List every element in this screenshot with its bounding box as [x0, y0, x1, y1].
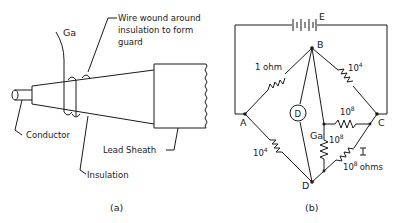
wire-leader	[88, 18, 117, 72]
c-junction-dot	[369, 123, 372, 126]
resistor-cd-label: 108ohms	[343, 160, 384, 172]
insulation-leader	[80, 116, 88, 174]
cable-diagram: Ga Wire wound around insulation to form …	[12, 13, 207, 213]
guard-wire-b	[312, 48, 324, 124]
battery-label: E	[319, 11, 325, 22]
detector-wire-top	[300, 48, 312, 104]
node-b-dot	[310, 46, 314, 50]
lead-sheath-leader	[166, 128, 178, 150]
guard-node-label: Ga	[310, 130, 323, 141]
insulation-cone	[32, 70, 154, 124]
guard-node-dot	[322, 122, 325, 125]
node-c-label: C	[378, 117, 385, 128]
wire-label-line3: guard	[118, 37, 143, 47]
battery-icon	[293, 19, 316, 31]
resistor-bc-label: 104	[348, 61, 363, 73]
guard-wire	[56, 32, 90, 117]
insulation-label: Insulation	[87, 170, 129, 180]
conductor-label: Conductor	[26, 130, 71, 140]
capacitor-gap-icon	[360, 148, 366, 155]
resistor-bc	[312, 48, 377, 114]
diagram-canvas: Ga Wire wound around insulation to form …	[0, 0, 398, 223]
detector-icon: D	[290, 105, 306, 121]
resistor-ad-label: 104	[253, 146, 268, 158]
guard-label: Ga	[63, 27, 76, 38]
wire-label-line2: insulation to form	[118, 25, 193, 35]
resistor-gc-label: 108	[340, 105, 355, 117]
caption-a: (a)	[110, 202, 123, 213]
svg-text:D: D	[295, 109, 302, 119]
node-c-dot	[375, 112, 379, 116]
node-b-label: B	[317, 39, 324, 50]
node-a-label: A	[240, 117, 247, 128]
lead-sheath	[154, 64, 207, 128]
node-d-label: D	[302, 180, 309, 191]
wire-label-line1: Wire wound around	[118, 13, 201, 23]
bridge-circuit: E 1 ohm 104 104 D	[235, 11, 387, 213]
lead-sheath-label: Lead Sheath	[103, 145, 156, 155]
resistor-ab-label: 1 ohm	[255, 62, 282, 72]
resistor-ab	[245, 48, 312, 114]
caption-b: (b)	[305, 202, 318, 213]
conductor	[12, 90, 32, 100]
d-junction-dot	[323, 170, 326, 173]
node-d-dot	[310, 180, 314, 184]
node-a-dot	[243, 112, 247, 116]
conductor-leader	[15, 100, 22, 135]
resistor-gd-label: 108	[329, 133, 344, 145]
